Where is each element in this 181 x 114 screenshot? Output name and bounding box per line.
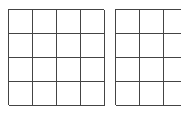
grid-cell [9, 82, 33, 106]
grid-cell [164, 34, 181, 58]
grid-cell [57, 10, 81, 34]
grid-cell [57, 82, 81, 106]
grid-cell [164, 10, 181, 34]
grid-cell [57, 34, 81, 58]
grid-cell [57, 58, 81, 82]
grid-cell [164, 82, 181, 106]
right-grid [115, 9, 181, 105]
grid-cell [9, 10, 33, 34]
grid-cell [81, 34, 105, 58]
grid-cell [116, 10, 140, 34]
grid-cell [140, 10, 164, 34]
grid-cell [116, 58, 140, 82]
grid-cell [33, 34, 57, 58]
grid-cell [140, 58, 164, 82]
grid-cell [81, 82, 105, 106]
figure-canvas [0, 0, 181, 114]
grid-cell [116, 34, 140, 58]
grid-cell [9, 34, 33, 58]
grid-cell [164, 58, 181, 82]
grid-cell [33, 10, 57, 34]
grid-cell [9, 58, 33, 82]
grid-cell [140, 34, 164, 58]
left-grid [8, 9, 104, 105]
grid-cell [140, 82, 164, 106]
grid-cell [81, 58, 105, 82]
grid-cell [33, 82, 57, 106]
grid-cell [81, 10, 105, 34]
grid-cell [116, 82, 140, 106]
grid-cell [33, 58, 57, 82]
